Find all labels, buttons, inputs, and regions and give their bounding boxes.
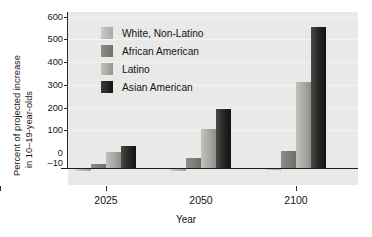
x-axis-zero-line [61, 168, 358, 169]
legend-item-latino: Latino [101, 60, 204, 78]
y-tick-400: 400 [33, 58, 63, 67]
legend-swatch-icon-african-american [101, 45, 113, 57]
y-axis-line [67, 12, 68, 169]
legend-swatch-icon-latino [101, 63, 113, 75]
x-tick-label-2025: 2025 [94, 194, 117, 206]
gridline-600 [68, 17, 358, 18]
y-tick-500: 500 [33, 35, 63, 44]
y-tick-600: 600 [33, 13, 63, 22]
y-tick-100: 100 [33, 126, 63, 135]
bar-2100-latino [296, 82, 311, 168]
legend-item-white-non-latino: White, Non-Latino [101, 24, 204, 42]
y-tick-300: 300 [33, 81, 63, 90]
y-axis-tick-labels: 600 500 400 300 200 100 0 –10 [33, 0, 63, 185]
bar-2025-latino [106, 152, 121, 168]
legend-label-asian-american: Asian American [122, 82, 193, 93]
bar-chart-figure: Percent of projected increase in 10–19-y… [0, 0, 372, 237]
legend-swatch-icon-asian-american [101, 81, 113, 93]
plot-area: White, Non-Latino African American Latin… [68, 12, 358, 185]
x-tick-label-2100: 2100 [284, 194, 307, 206]
x-tick-label-2050: 2050 [189, 194, 212, 206]
legend-label-latino: Latino [122, 64, 150, 75]
y-axis-title-line1: Percent of projected increase [12, 55, 22, 176]
bar-2100-asian-american [311, 27, 326, 168]
x-axis-title: Year [0, 214, 372, 225]
legend: White, Non-Latino African American Latin… [101, 24, 204, 96]
bar-2050-latino [201, 129, 216, 168]
legend-swatch-icon-white-non-latino [101, 27, 113, 39]
x-tick-mark-2100 [296, 186, 297, 191]
bar-2025-asian-american [121, 146, 136, 168]
legend-label-white-non-latino: White, Non-Latino [122, 28, 204, 39]
y-tick-0: 0 [33, 149, 63, 158]
y-tick-200: 200 [33, 104, 63, 113]
x-tick-mark-2050 [0, 186, 1, 191]
bar-2050-african-american [186, 158, 201, 168]
y-tick-neg10: –10 [33, 159, 63, 168]
y-axis-title: Percent of projected increase in 10–19-y… [0, 0, 34, 185]
legend-label-african-american: African American [122, 46, 199, 57]
bar-2050-asian-american [216, 109, 231, 168]
x-tick-mark-2025 [106, 186, 107, 191]
bar-2100-african-american [281, 151, 296, 168]
legend-item-asian-american: Asian American [101, 78, 204, 96]
legend-item-african-american: African American [101, 42, 204, 60]
